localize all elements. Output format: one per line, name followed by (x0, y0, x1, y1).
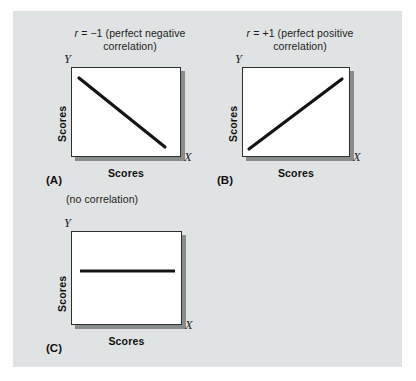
y-axis-label-a: Scores (56, 106, 68, 142)
plot-box-a (71, 67, 181, 157)
y-axis-letter-c: Y (64, 216, 71, 231)
plot-title-b-text: = +1 (perfect positive correlation) (250, 27, 353, 52)
plot-line-b (243, 68, 349, 156)
panel-letter-b: (B) (217, 174, 233, 186)
plot-panel-b: r = +1 (perfect positive correlation) Y … (170, 0, 390, 200)
plot-panel-c: (no correlation) Y X Scores Scores (C) (0, 164, 200, 381)
y-axis-letter-b: Y (235, 52, 242, 67)
y-axis-label-b: Scores (227, 106, 239, 142)
plot-box-b (242, 67, 350, 157)
y-axis-label-c: Scores (56, 276, 68, 312)
panel-letter-c: (C) (46, 342, 62, 354)
plot-line-c (72, 232, 181, 324)
plot-title-b: r = +1 (perfect positive correlation) (225, 27, 375, 52)
plot-line-a (72, 68, 180, 156)
plot-title-c-text: (no correlation) (66, 193, 138, 205)
y-axis-letter-a: Y (64, 52, 71, 67)
x-axis-label-b: Scores (242, 167, 350, 179)
plot-title-c: (no correlation) (66, 193, 196, 206)
x-axis-label-c: Scores (71, 335, 182, 347)
x-axis-letter-c: X (185, 318, 193, 333)
figure-root: r = −1 (perfect negative correlation) Y … (0, 0, 416, 381)
x-axis-letter-b: X (353, 150, 361, 165)
plot-box-c (71, 231, 182, 325)
